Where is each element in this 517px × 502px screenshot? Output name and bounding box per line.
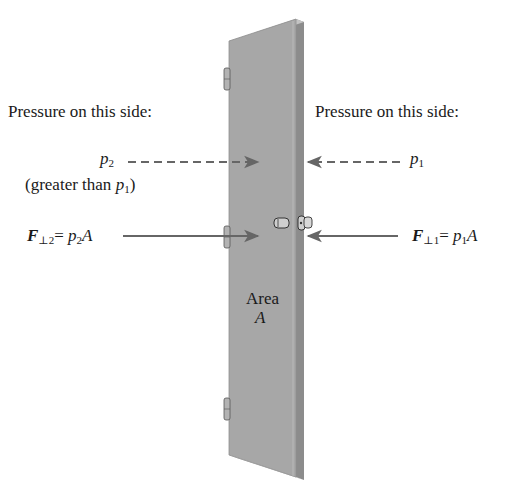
- right-pressure-heading: Pressure on this side:: [315, 103, 459, 120]
- door-area-symbol: A: [255, 309, 265, 326]
- hinge-icon: [224, 68, 230, 90]
- pressure-subscript: 2: [109, 157, 115, 169]
- right-pressure-label: p1: [410, 150, 424, 167]
- force-equals: =: [54, 226, 68, 245]
- door-face: [229, 19, 296, 477]
- force-rhs-area: A: [82, 226, 92, 245]
- force-subscript: ⊥2: [38, 234, 54, 246]
- force-rhs-symbol: p: [453, 226, 462, 245]
- force-rhs-area: A: [467, 226, 477, 245]
- diagram-stage: Pressure on this side: p2 (greater than …: [0, 0, 517, 502]
- force-subscript: ⊥1: [423, 234, 439, 246]
- pressure-subscript: 1: [419, 157, 425, 169]
- hinge-icon: [224, 398, 230, 420]
- door-illustration: [0, 0, 517, 502]
- note-symbol: p: [116, 175, 125, 194]
- door-edge: [296, 19, 304, 480]
- force-rhs-symbol: p: [68, 226, 77, 245]
- left-pressure-note: (greater than p1): [25, 176, 135, 193]
- note-prefix: (greater than: [25, 175, 116, 194]
- left-pressure-label: p2: [100, 150, 114, 167]
- force-symbol: F: [412, 226, 423, 245]
- note-suffix: ): [130, 175, 136, 194]
- left-pressure-heading: Pressure on this side:: [8, 103, 152, 120]
- force-equals: =: [439, 226, 453, 245]
- left-force-label: F⊥2= p2A: [27, 227, 92, 244]
- pressure-symbol: p: [100, 149, 109, 168]
- pressure-symbol: p: [410, 149, 419, 168]
- door-area-label: Area: [246, 290, 279, 307]
- force-symbol: F: [27, 226, 38, 245]
- right-force-label: F⊥1= p1A: [412, 227, 477, 244]
